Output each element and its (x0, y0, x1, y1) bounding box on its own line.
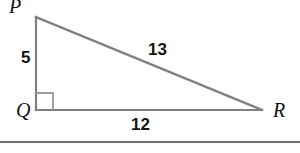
vertex-label-p: P (9, 0, 21, 16)
side-length-pr: 13 (148, 41, 167, 58)
side-length-pq: 5 (21, 49, 30, 66)
vertex-label-q: Q (16, 100, 30, 120)
triangle-figure: P Q R 5 13 12 (0, 0, 300, 153)
right-angle-marker (36, 93, 53, 110)
vertex-label-r: R (273, 100, 285, 120)
triangle-drawing (0, 0, 300, 153)
side-pr-line (36, 17, 262, 110)
side-length-qr: 12 (131, 116, 150, 133)
